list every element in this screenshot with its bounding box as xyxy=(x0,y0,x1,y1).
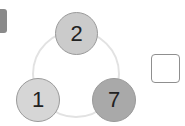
node-bottom-right: 7 xyxy=(92,78,136,122)
answer-box[interactable] xyxy=(151,54,180,83)
node-top-value: 2 xyxy=(70,21,82,47)
node-bottom-right-value: 7 xyxy=(108,87,120,113)
node-bottom-left: 1 xyxy=(16,78,60,122)
node-bottom-left-value: 1 xyxy=(32,87,44,113)
node-top: 2 xyxy=(55,12,98,55)
